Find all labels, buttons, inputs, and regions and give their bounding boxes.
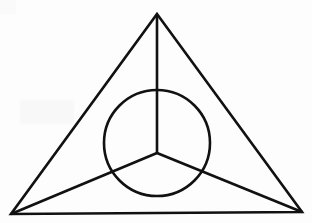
geometric-figure-svg bbox=[0, 0, 312, 223]
figure-canvas bbox=[0, 0, 312, 223]
